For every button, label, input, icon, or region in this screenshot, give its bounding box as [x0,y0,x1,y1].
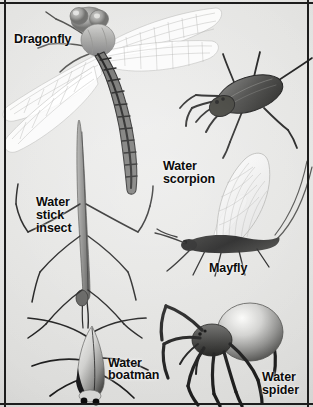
frame-rule-bottom [0,403,313,405]
label-mayfly: Mayfly [209,262,247,275]
water-scorpion-body [206,67,287,120]
dragonfly-thorax [81,24,115,56]
label-dragonfly: Dragonfly [14,33,71,46]
water-stick-insect-body [76,120,90,328]
label-water-stick-insect: Water stick insect [36,196,72,235]
water-spider-cephalothorax [192,324,232,356]
label-water-boatman: Water boatman [108,357,159,381]
label-water-scorpion: Water scorpion [163,160,215,186]
illustration-plate: Dragonfly Water scorpion Water stick ins… [0,0,313,407]
label-water-spider: Water spider [262,371,299,397]
mayfly-forewing [217,153,270,246]
frame-rule-right [307,0,309,407]
frame-rule-top [0,2,313,4]
water-boatman-body [76,326,104,398]
mayfly-body [181,235,280,253]
specimen-water-stick-insect [10,118,170,348]
frame-rule-left [4,0,6,407]
